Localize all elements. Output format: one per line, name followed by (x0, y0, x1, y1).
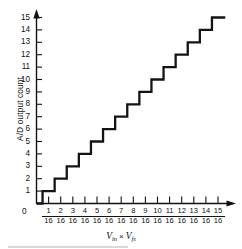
x-axis-ticks (49, 197, 218, 204)
x-axis-title-v-fs-subscript: fs (131, 235, 135, 242)
x-tick-label-15-16: 15 16 (210, 207, 226, 225)
x-axis-title-v-in-subscript: in (112, 235, 117, 242)
staircase-transfer-curve (37, 18, 226, 204)
y-tick-label-1: 1 (14, 187, 30, 195)
x-axis-title: Vin×Vfs (0, 231, 242, 241)
y-tick-label-15: 15 (14, 14, 30, 22)
x-tick-numerator-15: 15 (210, 207, 226, 216)
ad-converter-staircase-figure: 15 14 13 12 11 10 9 8 7 6 5 4 3 2 1 0 1 … (0, 0, 242, 249)
x-axis-arrowhead (227, 200, 237, 206)
cropped-caption-fragment (8, 246, 128, 248)
x-tick-denominator-15: 16 (210, 217, 226, 225)
x-axis-title-operator: × (117, 232, 126, 241)
y-axis-title: A/D output count (15, 39, 25, 179)
y-tick-label-14: 14 (14, 26, 30, 34)
origin-label: 0 (22, 208, 27, 216)
y-axis-ticks (37, 18, 43, 204)
